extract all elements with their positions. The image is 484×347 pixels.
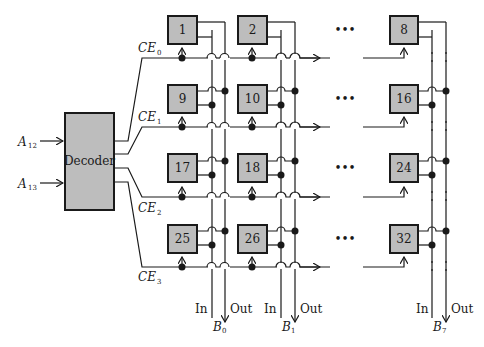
chip-26: 26 (238, 225, 267, 253)
svg-text:12: 12 (28, 142, 37, 150)
svg-text:0: 0 (157, 49, 161, 57)
svg-text:CE: CE (138, 201, 156, 215)
decoder-block: Decoder (64, 113, 115, 210)
memory-chips: 1 2 8 9 10 16 17 18 24 25 26 32 (168, 16, 418, 253)
svg-text:13: 13 (28, 184, 37, 192)
chip-25: 25 (168, 225, 197, 253)
chip-24: 24 (390, 154, 418, 182)
svg-text:A: A (17, 135, 27, 149)
svg-text:•••: ••• (334, 23, 355, 37)
chip-1: 1 (168, 16, 197, 44)
chip-9: 9 (168, 85, 197, 113)
memory-decoder-diagram: Decoder A 12 A 13 CE 0 CE 1 CE 2 CE 3 (0, 0, 484, 347)
decoder-input-a13: A 13 (17, 177, 63, 192)
svg-text:18: 18 (245, 161, 260, 175)
svg-text:25: 25 (175, 232, 190, 246)
svg-text:•••: ••• (334, 161, 355, 175)
svg-text:CE: CE (138, 270, 156, 284)
svg-text:3: 3 (157, 278, 161, 286)
svg-text:0: 0 (222, 327, 226, 335)
chip-16: 16 (390, 85, 418, 113)
decoder-label: Decoder (64, 154, 115, 168)
chip-10: 10 (238, 85, 267, 113)
svg-text:1: 1 (157, 118, 161, 126)
svg-text:17: 17 (175, 161, 190, 175)
svg-text:2: 2 (157, 209, 161, 217)
svg-text:In: In (264, 302, 277, 316)
chip-17: 17 (168, 154, 197, 182)
svg-text:2: 2 (249, 23, 257, 37)
svg-text:B: B (212, 320, 222, 334)
chip-8: 8 (390, 16, 418, 44)
svg-text:Out: Out (230, 302, 253, 316)
svg-text:7: 7 (442, 327, 446, 335)
svg-text:Out: Out (451, 302, 474, 316)
svg-text:•••: ••• (334, 232, 355, 246)
svg-text:A: A (17, 177, 27, 191)
svg-text:In: In (195, 302, 208, 316)
ce-labels: CE 0 CE 1 CE 2 CE 3 (138, 41, 161, 286)
chip-32: 32 (390, 225, 418, 253)
ce-arrowheads (300, 58, 320, 267)
svg-text:Out: Out (300, 302, 323, 316)
svg-text:8: 8 (400, 23, 408, 37)
svg-text:16: 16 (396, 92, 411, 106)
decoder-input-a12: A 12 (17, 135, 63, 150)
svg-text:1: 1 (179, 23, 187, 37)
decoder-outputs (114, 58, 432, 267)
chip-18: 18 (238, 154, 267, 182)
svg-text:24: 24 (396, 161, 412, 175)
svg-text:9: 9 (179, 92, 187, 106)
svg-text:•••: ••• (334, 92, 355, 106)
svg-text:B: B (432, 320, 442, 334)
chip-2: 2 (238, 16, 267, 44)
svg-text:In: In (416, 302, 429, 316)
svg-text:1: 1 (291, 327, 295, 335)
svg-text:CE: CE (138, 41, 156, 55)
svg-text:B: B (281, 320, 291, 334)
svg-text:32: 32 (396, 232, 411, 246)
svg-text:CE: CE (138, 110, 156, 124)
svg-text:10: 10 (245, 92, 260, 106)
svg-text:26: 26 (245, 232, 260, 246)
